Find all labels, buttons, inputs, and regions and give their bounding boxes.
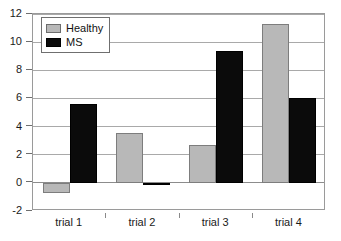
y-tick-mark [26, 125, 32, 126]
bar-ms-trial-3 [216, 51, 243, 183]
x-tick-label: trial 2 [105, 216, 178, 228]
y-tick-label: 0 [0, 177, 28, 187]
bar-healthy-trial-4 [262, 24, 289, 183]
x-tick-mark [179, 213, 180, 218]
y-tick-label: -2 [0, 205, 28, 215]
y-tick-mark [26, 210, 32, 211]
y-tick-label: 8 [0, 64, 28, 74]
legend-swatch-ms-icon [46, 38, 61, 47]
y-tick-label: 6 [0, 92, 28, 102]
legend-label-ms: MS [66, 36, 83, 48]
chart-legend: Healthy MS [41, 17, 110, 53]
y-tick-mark [26, 153, 32, 154]
x-tick-label: trial 3 [179, 216, 252, 228]
x-axis-tick-labels: trial 1trial 2trial 3trial 4 [32, 213, 325, 237]
legend-item-healthy: Healthy [46, 21, 103, 35]
y-tick-label: 4 [0, 121, 28, 131]
y-tick-mark [26, 41, 32, 42]
bar-ms-trial-4 [289, 98, 316, 183]
legend-label-healthy: Healthy [66, 22, 103, 34]
y-tick-mark [26, 69, 32, 70]
bar-ms-trial-2 [143, 183, 170, 185]
y-tick-mark [26, 13, 32, 14]
y-tick-label: 2 [0, 149, 28, 159]
x-tick-mark [252, 213, 253, 218]
bar-healthy-trial-1 [43, 183, 70, 193]
y-tick-mark [26, 181, 32, 182]
legend-swatch-healthy-icon [46, 24, 61, 33]
x-tick-label: trial 4 [252, 216, 325, 228]
bar-chart: 121086420-2 trial 1trial 2trial 3trial 4… [0, 0, 341, 241]
legend-item-ms: MS [46, 35, 103, 49]
y-tick-mark [26, 97, 32, 98]
bar-ms-trial-1 [70, 104, 97, 183]
y-tick-label: 10 [0, 36, 28, 46]
x-tick-mark [105, 213, 106, 218]
bar-healthy-trial-3 [189, 145, 216, 183]
y-tick-label: 12 [0, 8, 28, 18]
x-tick-label: trial 1 [32, 216, 105, 228]
bar-healthy-trial-2 [116, 133, 143, 183]
y-axis-tick-labels: 121086420-2 [0, 0, 28, 241]
gridline [33, 14, 324, 15]
